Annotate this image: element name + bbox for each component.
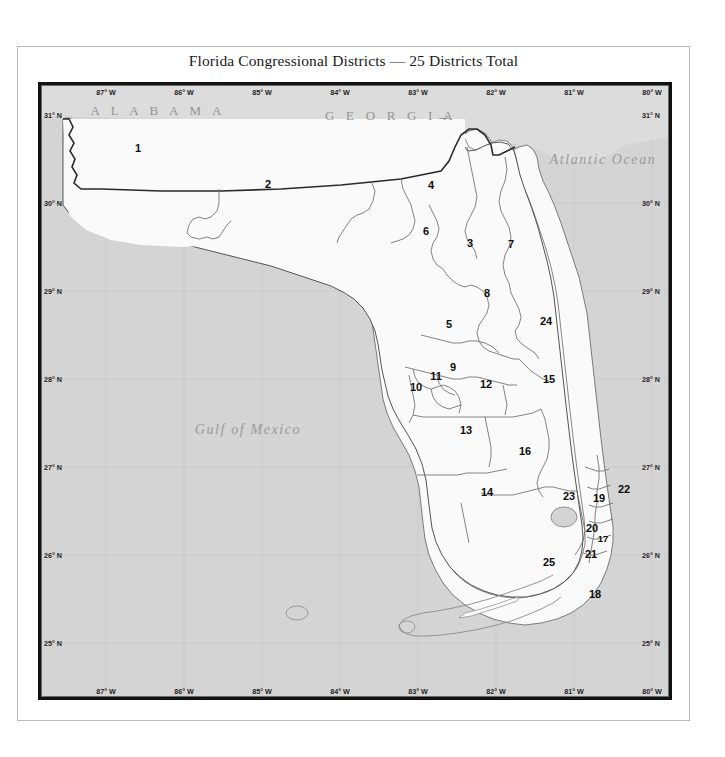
district-label-layer: 1234567891011121314151617181920212223242…: [41, 85, 669, 697]
latitude-tick-left: 30° N: [44, 199, 62, 208]
longitude-tick-bottom: 86° W: [174, 687, 194, 696]
longitude-tick-bottom: 87° W: [96, 687, 116, 696]
latitude-tick-right: 30° N: [642, 199, 660, 208]
longitude-tick-bottom: 84° W: [330, 687, 350, 696]
district-label-11: 11: [430, 370, 442, 382]
longitude-tick-bottom: 81° W: [564, 687, 584, 696]
district-label-10: 10: [410, 381, 422, 393]
district-label-14: 14: [481, 486, 493, 498]
latitude-tick-left: 31° N: [44, 111, 62, 120]
district-label-18: 18: [589, 588, 601, 600]
district-label-8: 8: [484, 287, 490, 299]
district-label-13: 13: [460, 424, 472, 436]
longitude-tick-bottom: 83° W: [408, 687, 428, 696]
district-label-25: 25: [543, 556, 555, 568]
latitude-tick-right: 26° N: [642, 551, 660, 560]
district-label-23: 23: [563, 490, 575, 502]
longitude-tick-top: 86° W: [174, 88, 194, 97]
district-label-22: 22: [618, 483, 630, 495]
district-label-2: 2: [265, 178, 271, 190]
latitude-tick-right: 29° N: [642, 287, 660, 296]
district-label-4: 4: [428, 179, 434, 191]
latitude-tick-right: 27° N: [642, 463, 660, 472]
district-label-16: 16: [519, 445, 531, 457]
district-label-6: 6: [423, 225, 429, 237]
latitude-tick-right: 31° N: [642, 111, 660, 120]
longitude-tick-top: 82° W: [486, 88, 506, 97]
district-label-20: 20: [586, 522, 598, 534]
longitude-tick-bottom: 82° W: [486, 687, 506, 696]
district-label-3: 3: [467, 237, 473, 249]
longitude-tick-bottom: 80° W: [642, 687, 662, 696]
district-label-21: 21: [585, 548, 597, 560]
latitude-tick-left: 25° N: [44, 639, 62, 648]
district-label-24: 24: [540, 315, 552, 327]
map-page: Florida Congressional Districts — 25 Dis…: [0, 0, 725, 757]
district-label-1: 1: [135, 142, 141, 154]
map-frame: A L A B A M AG E O R G I AAtlantic Ocean…: [38, 82, 672, 700]
latitude-tick-left: 27° N: [44, 463, 62, 472]
longitude-tick-top: 81° W: [564, 88, 584, 97]
latitude-tick-right: 25° N: [642, 639, 660, 648]
map-title: Florida Congressional Districts — 25 Dis…: [17, 52, 690, 70]
longitude-tick-bottom: 85° W: [252, 687, 272, 696]
district-label-15: 15: [543, 373, 555, 385]
district-label-19: 19: [593, 492, 605, 504]
district-label-5: 5: [446, 318, 452, 330]
district-label-17: 17: [598, 533, 609, 544]
district-label-7: 7: [508, 238, 514, 250]
latitude-tick-left: 26° N: [44, 551, 62, 560]
latitude-tick-left: 28° N: [44, 375, 62, 384]
longitude-tick-top: 87° W: [96, 88, 116, 97]
longitude-tick-top: 85° W: [252, 88, 272, 97]
longitude-tick-top: 80° W: [642, 88, 662, 97]
longitude-tick-top: 83° W: [408, 88, 428, 97]
longitude-tick-top: 84° W: [330, 88, 350, 97]
latitude-tick-right: 28° N: [642, 375, 660, 384]
district-label-12: 12: [480, 378, 492, 390]
district-label-9: 9: [450, 361, 456, 373]
latitude-tick-left: 29° N: [44, 287, 62, 296]
